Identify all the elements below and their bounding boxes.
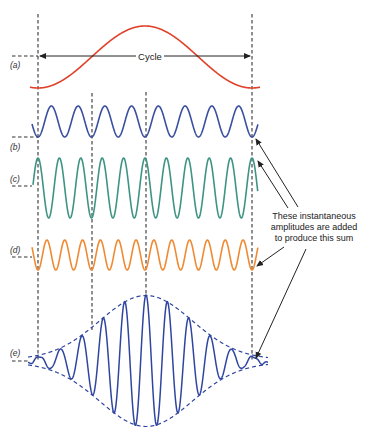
wave-c-teal <box>33 158 258 218</box>
arrow-to-d <box>257 247 284 266</box>
label-b: (b) <box>10 142 21 152</box>
arrow-to-e <box>256 249 306 358</box>
label-a: (a) <box>10 60 21 70</box>
annotation-line-3: to produce this sum <box>275 233 354 243</box>
cycle-arrow: Cycle <box>40 49 250 63</box>
arrow-to-c <box>258 161 288 208</box>
annotation-line-2: amplitudes are added <box>271 222 358 232</box>
wave-b-blue <box>32 106 258 137</box>
label-c: (c) <box>10 174 20 184</box>
wave-e-sum <box>28 295 268 425</box>
arrow-to-b <box>256 139 298 207</box>
cycle-label: Cycle <box>138 51 162 62</box>
wave-d-orange <box>32 240 258 270</box>
sum-annotation: These instantaneous amplitudes are added… <box>256 139 357 358</box>
envelope-bottom-dashed <box>28 364 268 426</box>
vertical-guides <box>38 14 252 362</box>
superposition-diagram: (a) (b) (c) (d) (e) Cycle These instanta… <box>0 0 372 438</box>
label-e: (e) <box>10 348 21 358</box>
label-d: (d) <box>10 245 21 255</box>
annotation-line-1: These instantaneous <box>272 211 356 221</box>
reference-ticks <box>12 56 38 361</box>
